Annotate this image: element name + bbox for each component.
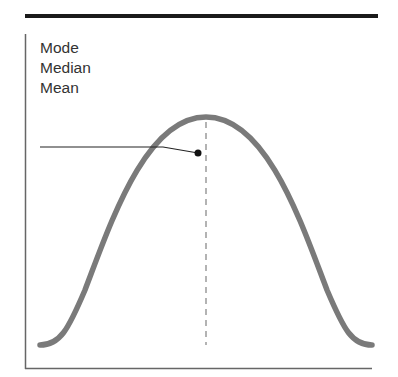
leader-line (40, 147, 198, 153)
label-mean: Mean (40, 79, 79, 97)
label-mode: Mode (40, 39, 79, 57)
pointer-dot (195, 150, 202, 157)
label-median: Median (40, 59, 91, 77)
